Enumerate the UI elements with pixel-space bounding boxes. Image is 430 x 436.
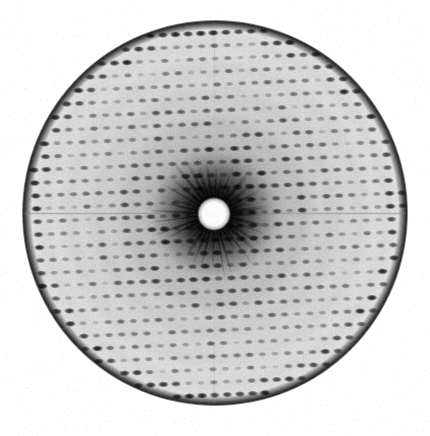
- xray-diffraction-pattern: [0, 0, 430, 436]
- diffraction-image-container: X-ray Diffraction Pattern Single-crystal…: [0, 0, 430, 436]
